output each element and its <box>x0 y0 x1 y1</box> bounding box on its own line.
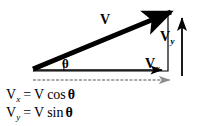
equation-vy-magnitude: V <box>34 105 44 120</box>
component-equations: Vx=Vcosθ Vy=Vsinθ <box>6 87 75 123</box>
equation-vy-symbol: V <box>6 105 16 120</box>
vy-subscript: y <box>171 36 175 46</box>
equation-vx: Vx=Vcosθ <box>6 87 75 105</box>
equation-vx-angle: θ <box>68 87 75 102</box>
equation-vy-function: sin <box>47 105 63 120</box>
vx-symbol: V <box>145 56 155 71</box>
equation-vx-operator: = <box>23 87 31 102</box>
equation-vy: Vy=Vsinθ <box>6 105 75 123</box>
equation-vx-subscript: x <box>16 94 20 104</box>
vy-component-label: Vy <box>160 30 175 46</box>
resultant-vector-label: V <box>100 13 110 27</box>
equation-vy-operator: = <box>23 105 31 120</box>
vector-components-figure: V Vy Vx θ Vx=Vcosθ Vy=Vsinθ <box>0 0 201 126</box>
equation-vx-function: cos <box>47 87 66 102</box>
equation-vy-angle: θ <box>66 105 73 120</box>
angle-theta-label: θ <box>62 57 69 70</box>
vx-component-label: Vx <box>145 57 160 73</box>
equation-vy-subscript: y <box>16 112 20 122</box>
equation-vx-symbol: V <box>6 87 16 102</box>
equation-vx-magnitude: V <box>34 87 44 102</box>
vx-subscript: x <box>156 63 161 73</box>
vy-symbol: V <box>160 29 170 44</box>
